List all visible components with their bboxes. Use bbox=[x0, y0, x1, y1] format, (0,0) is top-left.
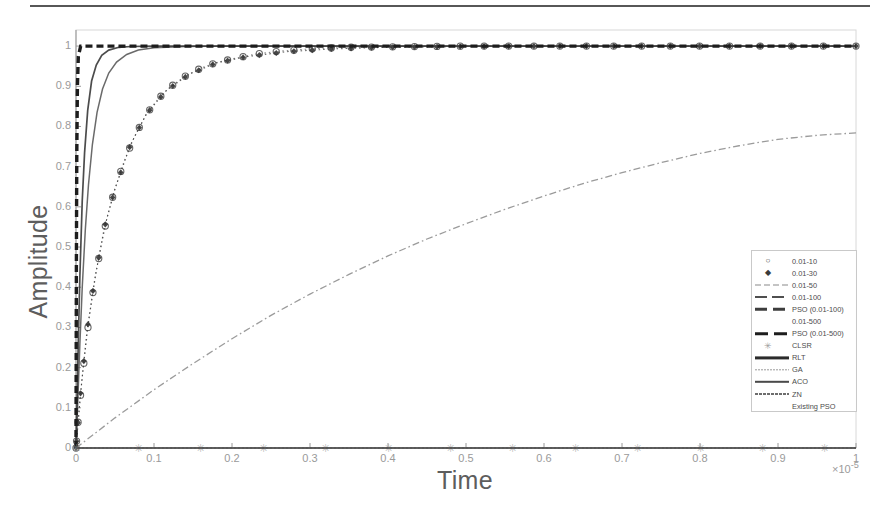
legend-item[interactable]: ZN bbox=[755, 388, 853, 400]
legend-line-icon bbox=[755, 296, 789, 298]
legend-line-icon bbox=[755, 369, 789, 370]
figure-root: ✳✳✳✳✳✳✳✳✳✳✳✳✳ Amplitude Time ×10-5 00.10… bbox=[0, 0, 888, 510]
y-tick-label: 0.1 bbox=[45, 401, 71, 413]
legend-line-icon bbox=[755, 356, 789, 359]
x-axis-label: Time bbox=[400, 466, 530, 495]
x-tick-label: 0.4 bbox=[368, 452, 408, 464]
legend-item[interactable]: RLT bbox=[755, 352, 853, 364]
plot-frame bbox=[76, 30, 856, 448]
y-tick-label: 0 bbox=[45, 441, 71, 453]
legend-sample-solid-medium-icon bbox=[755, 376, 789, 387]
legend-label: GA bbox=[792, 364, 803, 375]
y-tick-label: 0.2 bbox=[45, 361, 71, 373]
diamond-marker-icon: ◆ bbox=[765, 269, 771, 277]
legend-item[interactable]: 0.01-500 bbox=[755, 315, 853, 327]
legend-item[interactable]: PSO (0.01-100) bbox=[755, 303, 853, 315]
legend-label: PSO (0.01-100) bbox=[792, 304, 844, 315]
legend-sample-dashed-medium-icon bbox=[755, 292, 789, 303]
series-0-01-30 bbox=[73, 43, 859, 451]
legend-sample-marker-diamond-icon: ◆ bbox=[755, 268, 789, 279]
legend-label: RLT bbox=[792, 352, 805, 363]
legend-sample-marker-circle-icon: ○ bbox=[755, 256, 789, 267]
y-tick-label: 0.6 bbox=[45, 200, 71, 212]
x-tick-label: 0.8 bbox=[680, 452, 720, 464]
x-tick-label: 0.5 bbox=[446, 452, 486, 464]
legend-item[interactable]: GA bbox=[755, 364, 853, 376]
legend-label: 0.01-50 bbox=[792, 280, 817, 291]
x-tick-label: 0 bbox=[56, 452, 96, 464]
legend-line-icon bbox=[755, 332, 789, 336]
y-tick-label: 1 bbox=[45, 39, 71, 51]
y-tick-label: 0.5 bbox=[45, 240, 71, 252]
legend-item[interactable]: ACO bbox=[755, 376, 853, 388]
legend-item[interactable]: PSO (0.01-500) bbox=[755, 328, 853, 340]
legend-label: Existing PSO bbox=[792, 401, 836, 412]
x-tick-label: 0.7 bbox=[602, 452, 642, 464]
legend-label: ZN bbox=[792, 389, 802, 400]
x-tick-label: 0.2 bbox=[212, 452, 252, 464]
legend-sample-none-icon bbox=[755, 401, 789, 412]
legend-label: 0.01-100 bbox=[792, 292, 821, 303]
legend-label: 0.01-30 bbox=[792, 268, 817, 279]
x-tick-label: 0.6 bbox=[524, 452, 564, 464]
legend-label: PSO (0.01-500) bbox=[792, 328, 844, 339]
y-tick-label: 0.7 bbox=[45, 160, 71, 172]
legend-item[interactable]: ○0.01-10 bbox=[755, 255, 853, 267]
legend-line-icon bbox=[755, 393, 789, 395]
legend-sample-none-icon bbox=[755, 316, 789, 327]
circle-marker-icon: ○ bbox=[766, 257, 771, 265]
y-tick-label: 0.3 bbox=[45, 320, 71, 332]
legend-sample-solid-light-icon bbox=[755, 364, 789, 375]
y-tick-label: 0.9 bbox=[45, 79, 71, 91]
x-tick-label: 0.3 bbox=[290, 452, 330, 464]
legend-label: ACO bbox=[792, 376, 808, 387]
y-tick-label: 0.8 bbox=[45, 119, 71, 131]
legend-label: CLSR bbox=[792, 340, 812, 351]
legend-line-icon bbox=[755, 308, 789, 311]
legend-line-icon bbox=[755, 381, 789, 383]
legend-sample-dashed-heavy-icon bbox=[755, 328, 789, 339]
y-tick-label: 0.4 bbox=[45, 280, 71, 292]
legend-item[interactable]: Existing PSO bbox=[755, 400, 853, 412]
legend-label: 0.01-500 bbox=[792, 316, 821, 327]
chart-legend[interactable]: ○0.01-10◆0.01-300.01-500.01-100PSO (0.01… bbox=[751, 250, 857, 412]
legend-item[interactable]: ✳CLSR bbox=[755, 340, 853, 352]
star-marker-icon: ✳ bbox=[764, 341, 772, 350]
x-tick-label: 1 bbox=[836, 452, 876, 464]
legend-item[interactable]: 0.01-100 bbox=[755, 291, 853, 303]
x-tick-label: 0.9 bbox=[758, 452, 798, 464]
legend-sample-solid-heavy-icon bbox=[755, 352, 789, 363]
x-axis-exponent-base: ×10 bbox=[832, 463, 851, 475]
series-0-01-50 bbox=[76, 133, 856, 448]
legend-sample-dashed-thick-icon bbox=[755, 304, 789, 315]
x-tick-label: 0.1 bbox=[134, 452, 174, 464]
axis-ticks bbox=[76, 46, 856, 448]
series-0-01-10 bbox=[73, 43, 859, 451]
legend-sample-solid-dotted-icon bbox=[755, 389, 789, 400]
legend-item[interactable]: 0.01-50 bbox=[755, 279, 853, 291]
legend-sample-marker-star-icon: ✳ bbox=[755, 340, 789, 351]
legend-line-icon bbox=[755, 285, 789, 286]
series-0-01-100 bbox=[76, 46, 856, 448]
series-pso-0-01-100- bbox=[76, 46, 856, 448]
legend-item[interactable]: ◆0.01-30 bbox=[755, 267, 853, 279]
series-pso-0-01-500- bbox=[76, 46, 856, 448]
legend-label: 0.01-10 bbox=[792, 256, 817, 267]
series-group: ✳✳✳✳✳✳✳✳✳✳✳✳✳ bbox=[72, 43, 860, 454]
legend-sample-dashdot-thin-icon bbox=[755, 280, 789, 291]
